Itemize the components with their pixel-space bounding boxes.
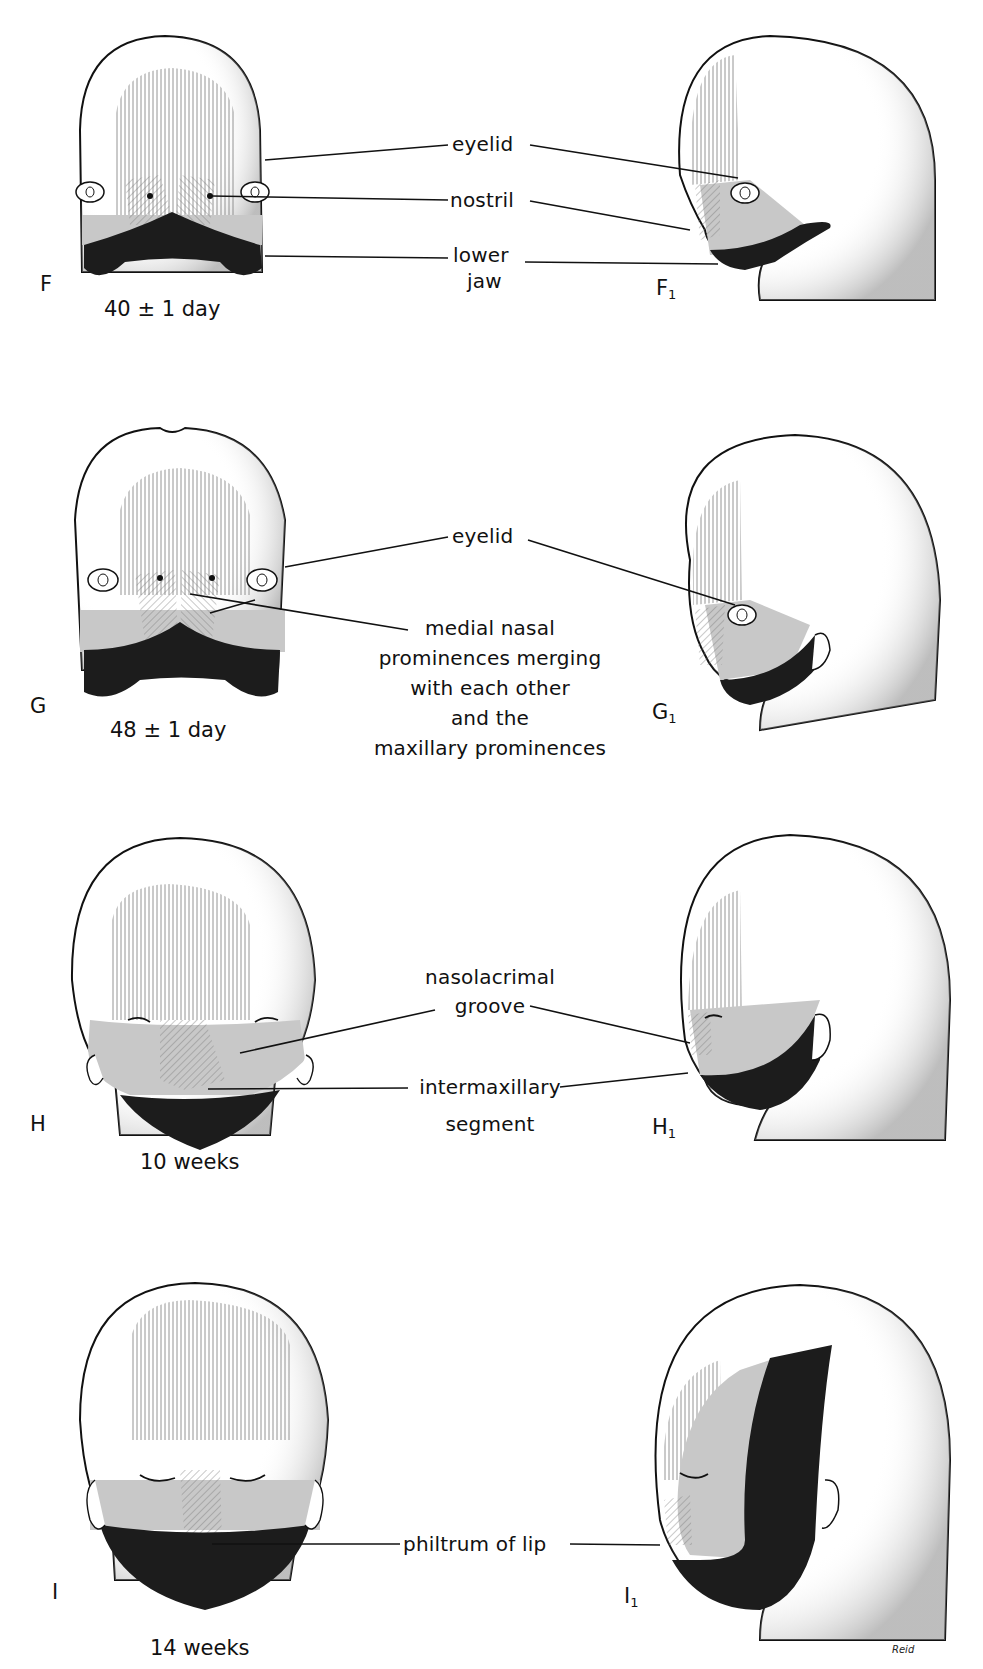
age-label-H: 10 weeks [140,1150,240,1174]
annotation-medial-nasal-line2: prominences merging [360,646,620,670]
panel-label-F1-letter: F [656,276,668,300]
panel-label-H: H [30,1112,46,1136]
panel-G-lateral [686,435,940,730]
annotation-eyelid-F: eyelid [452,132,513,156]
age-label-F: 40 ± 1 day [104,297,220,321]
age-label-G: 48 ± 1 day [110,718,226,742]
annotation-philtrum-of-lip: philtrum of lip [403,1532,547,1556]
panel-label-I1-subscript: 1 [630,1595,638,1610]
panel-label-H1-letter: H [652,1115,668,1139]
annotation-lower-jaw-F-line2: jaw [467,269,502,293]
age-label-I: 14 weeks [150,1636,250,1660]
panel-F-lateral [679,36,935,300]
annotation-medial-nasal-line3: with each other [360,676,620,700]
panel-label-I: I [52,1580,58,1604]
panel-label-F1-subscript: 1 [668,287,676,302]
annotation-eyelid-G: eyelid [452,524,513,548]
panel-label-G: G [30,694,46,718]
annotation-medial-nasal-line5: maxillary prominences [360,736,620,760]
panel-label-G1-letter: G [652,700,668,724]
artist-signature: Reid [892,1644,914,1655]
panel-label-F: F [40,272,52,296]
annotation-nasolacrimal-line2: groove [380,994,600,1018]
annotation-nasolacrimal-line1: nasolacrimal [380,965,600,989]
annotation-lower-jaw-F-line1: lower [453,243,509,267]
annotation-nostril-F: nostril [450,188,514,212]
panel-label-G1-subscript: 1 [668,711,676,726]
panel-label-H1: H1 [652,1115,676,1146]
panel-label-G1: G1 [652,700,677,731]
panel-F-frontal [76,36,269,275]
panel-label-F1: F1 [656,276,676,307]
annotation-intermaxillary-line2: segment [380,1112,600,1136]
panel-H-lateral [681,835,950,1140]
panel-I-lateral [656,1285,951,1640]
panel-G-frontal [75,428,285,696]
annotation-medial-nasal-line4: and the [360,706,620,730]
panel-I-frontal [80,1283,328,1610]
panel-label-I1: I1 [624,1584,638,1615]
annotation-intermaxillary-line1: intermaxillary [380,1075,600,1099]
panel-H-frontal [72,838,315,1150]
panel-label-H1-subscript: 1 [668,1126,676,1141]
annotation-medial-nasal-line1: medial nasal [360,616,620,640]
